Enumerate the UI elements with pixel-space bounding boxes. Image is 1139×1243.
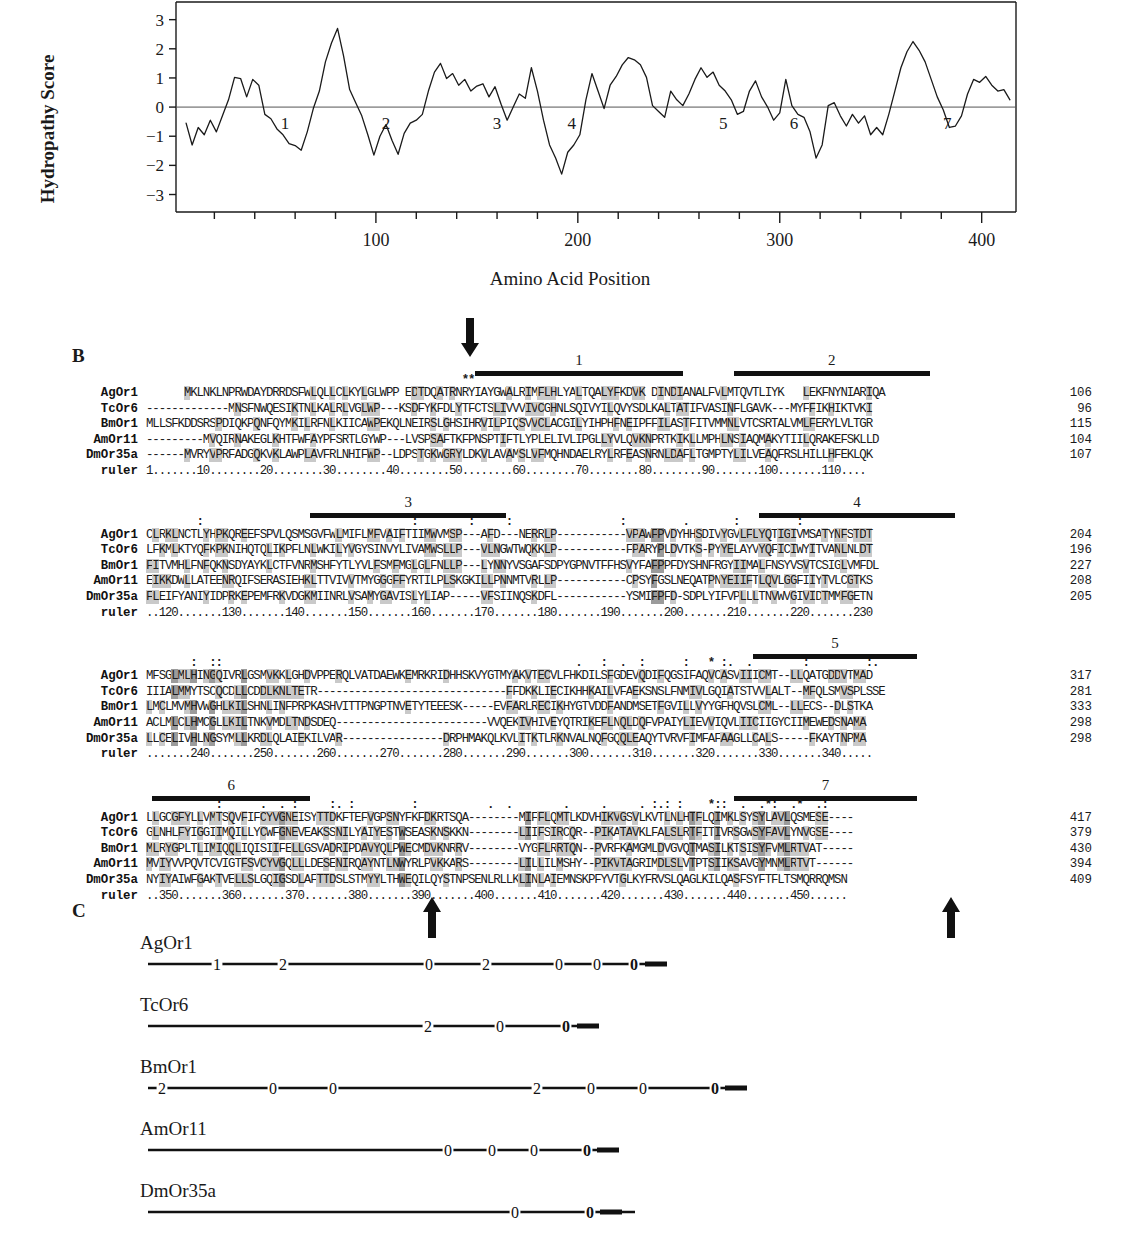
svg-text:−1: −1: [146, 127, 164, 146]
sequence-name-label: AgOr1: [72, 811, 138, 825]
alignment-block-header: 67 : . . : :. : : . . . . . :.: : *:: . …: [0, 777, 1139, 811]
sequence-residues: FITVMHLFNFQKNSDYAYKLCTFVNRMSHFYTLYVLFSMF…: [146, 559, 878, 573]
sequence-residues: LMCLMVMHVWGHLKILSHNLINFPRPKASHVITTPNGPTN…: [146, 700, 872, 714]
svg-text:0: 0: [496, 1018, 504, 1035]
alignment-row: AmOr11EIKKDWLLATEENRQIFSERASIEHKLTTVIVVT…: [0, 574, 1139, 590]
ruler-ticks: .......240.......250.......260.......270…: [146, 747, 872, 761]
svg-text:1: 1: [156, 69, 165, 88]
residue-position-number: 115: [1052, 417, 1092, 431]
gene-structure-diagram: 2002000: [0, 1054, 1000, 1116]
residue-position-number: 409: [1052, 873, 1092, 887]
svg-text:0: 0: [583, 1142, 591, 1159]
hydropathy-plot-panel: Hydropathy Score 3210−1−2−31002003004001…: [0, 0, 1139, 310]
sequence-residues: EIKKDWLLATEENRQIFSERASIEHKLTTVIVVTMYGGGF…: [146, 574, 872, 588]
sequence-name-label: DmOr35a: [72, 448, 138, 462]
residue-position-number: 281: [1052, 685, 1092, 699]
svg-text:0: 0: [329, 1080, 337, 1097]
gene-structure-diagram: 0000: [0, 1116, 1000, 1178]
svg-text:0: 0: [511, 1204, 519, 1221]
transmembrane-domain-bar: [475, 371, 684, 376]
svg-text:0: 0: [586, 1204, 594, 1221]
svg-text:3: 3: [156, 11, 165, 30]
residue-position-number: 204: [1052, 528, 1092, 542]
alignment-block-header: 12 **: [0, 352, 1139, 386]
svg-text:0: 0: [488, 1142, 496, 1159]
residue-position-number: 208: [1052, 574, 1092, 588]
residue-position-number: 298: [1052, 732, 1092, 746]
gene-structure-row: AgOr11202000: [0, 930, 1139, 992]
svg-text:0: 0: [711, 1080, 719, 1097]
sequence-name-label: AgOr1: [72, 386, 138, 400]
svg-text:−3: −3: [146, 186, 164, 205]
sequence-residues: LLCELIVHLNGSYMLLKRDLQLAIEKILVAR---------…: [146, 732, 866, 746]
svg-text:0: 0: [562, 1018, 570, 1035]
residue-position-number: 106: [1052, 386, 1092, 400]
residue-position-number: 379: [1052, 826, 1092, 840]
residue-position-number: 317: [1052, 669, 1092, 683]
svg-text:0: 0: [587, 1080, 595, 1097]
residue-position-number: 96: [1052, 402, 1092, 416]
alignment-row: BmOr1FITVMHLFNFQKNSDYAYKLCTFVNRMSHFYTLYV…: [0, 559, 1139, 575]
svg-text:0: 0: [555, 956, 563, 973]
alignment-row: AgOr1 MKLNKLNPRWDAYDRRDSFWLQLLCLKYLGLWPP…: [0, 386, 1139, 402]
sequence-name-label: AmOr11: [72, 574, 138, 588]
svg-text:0: 0: [630, 956, 638, 973]
alignment-row: AmOr11---------MVQIRNAKEGLKHTFWFAYPFSRTL…: [0, 433, 1139, 449]
svg-text:5: 5: [719, 114, 728, 133]
conservation-symbol-row: **: [146, 375, 474, 386]
sequence-residues: ---------MVQIRNAKEGLKHTFWFAYPFSRTLGYWP--…: [146, 433, 878, 447]
residue-position-number: 333: [1052, 700, 1092, 714]
ruler-label: ruler: [72, 606, 138, 620]
alignment-row: BmOr1LMCLMVMHVWGHLKILSHNLINFPRPKASHVITTP…: [0, 700, 1139, 716]
sequence-residues: LFKMLKTYQFKPKNIHQTQLIKPFLNLWKILYVGYSINVY…: [146, 543, 872, 557]
sequence-name-label: TcOr6: [72, 543, 138, 557]
transmembrane-domain-label: 1: [475, 352, 684, 369]
alignment-row: TcOr6GLNHLFYIGGIIMQILLYCWFGNEVEAKSSNILYA…: [0, 826, 1139, 842]
alignment-block: 12 **AgOr1 MKLNKLNPRWDAYDRRDSFWLQLLCLKYL…: [0, 352, 1139, 480]
conservation-symbol-row: : : : : : . : :: [146, 517, 803, 528]
alignment-row: DmOr35a------MVRYVPRFADGQKVKLAWPLAVFRLNH…: [0, 448, 1139, 464]
sequence-residues: MKLNKLNPRWDAYDRRDSFWLQLLCLKYLGLWPP EDTDQ…: [146, 386, 885, 400]
svg-text:2: 2: [158, 1080, 166, 1097]
sequence-name-label: DmOr35a: [72, 732, 138, 746]
sequence-name-label: AgOr1: [72, 669, 138, 683]
residue-position-number: 417: [1052, 811, 1092, 825]
ruler-ticks: ..120.......130.......140.......150.....…: [146, 606, 872, 620]
svg-text:0: 0: [593, 956, 601, 973]
sequence-name-label: DmOr35a: [72, 590, 138, 604]
svg-text:2: 2: [482, 956, 490, 973]
sequence-name-label: AmOr11: [72, 857, 138, 871]
alignment-block-header: 34 : : : : : . : :: [0, 494, 1139, 528]
transmembrane-domain-label: 6: [152, 777, 310, 794]
svg-text:2: 2: [156, 40, 165, 59]
sequence-residues: MVIYVVPQVTCVIGTFSVCYVGQLLLDESENIRQAYNTLN…: [146, 857, 853, 871]
sequence-name-label: BmOr1: [72, 700, 138, 714]
svg-text:1: 1: [281, 114, 290, 133]
svg-text:6: 6: [790, 114, 799, 133]
gene-structure-diagram: 1202000: [0, 930, 1000, 992]
alignment-ruler-row: ruler.......240.......250.......260.....…: [0, 747, 1139, 763]
svg-text:400: 400: [968, 230, 995, 250]
svg-text:100: 100: [362, 230, 389, 250]
svg-text:0: 0: [269, 1080, 277, 1097]
ruler-label: ruler: [72, 747, 138, 761]
svg-text:4: 4: [568, 114, 577, 133]
alignment-panel: 12 **AgOr1 MKLNKLNPRWDAYDRRDSFWLQLLCLKYL…: [0, 352, 1139, 964]
alignment-row: AmOr11MVIYVVPQVTCVIGTFSVCYVGQLLLDESENIRQ…: [0, 857, 1139, 873]
sequence-residues: ------MVRYVPRFADGQKVKLAWPLAVFRLNHIFWP--L…: [146, 448, 872, 462]
gene-structure-diagram: 00: [0, 1178, 1000, 1240]
gene-structure-row: AmOr110000: [0, 1116, 1139, 1178]
residue-position-number: 298: [1052, 716, 1092, 730]
svg-text:7: 7: [943, 114, 952, 133]
alignment-row: BmOr1MLRYGPLTLIMIQQLIQISIIFELLGSVADRIPDA…: [0, 842, 1139, 858]
transmembrane-domain-bar: [734, 371, 930, 376]
transmembrane-domain-label: 2: [734, 352, 930, 369]
sequence-residues: IIIALMMYTSCQCDLLCDDLKNLTETR-------------…: [146, 685, 885, 699]
transmembrane-domain-label: 7: [734, 777, 917, 794]
gene-structure-row: DmOr35a00: [0, 1178, 1139, 1240]
sequence-residues: GLNHLFYIGGIIMQILLYCWFGNEVEAKSSNILYAIYEST…: [146, 826, 853, 840]
sequence-residues: FLEIFYANIYIDPRKEPEMFRKVDGKMIINRLVSAMYGAV…: [146, 590, 872, 604]
sequence-residues: MFSGLMLHINGQIVRLGSMVKKLGHDVPPERQLVATDAEW…: [146, 669, 872, 683]
svg-text:−2: −2: [146, 156, 164, 175]
residue-position-number: 107: [1052, 448, 1092, 462]
